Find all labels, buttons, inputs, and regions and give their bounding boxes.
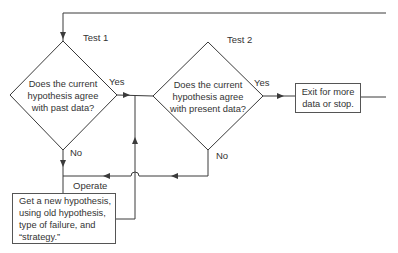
arrow-left-icon bbox=[103, 173, 110, 179]
exit-box-line: data or stop. bbox=[296, 98, 360, 110]
test2-question-line: hypothesis agree bbox=[156, 91, 260, 103]
test2-yes-label: Yes bbox=[254, 77, 270, 88]
exit-box-line: Exit for more bbox=[296, 86, 360, 98]
arrow-right-icon bbox=[277, 93, 284, 99]
new-hypothesis-line: type of failure, and bbox=[19, 219, 115, 231]
test1-yes-label: Yes bbox=[109, 76, 125, 87]
test2-question: Does the current hypothesis agree with p… bbox=[156, 79, 260, 115]
test1-yes-connector bbox=[117, 95, 153, 96]
new-hypothesis-box: Get a new hypothesis, using old hypothes… bbox=[12, 193, 116, 244]
arrow-down-icon bbox=[60, 32, 66, 39]
test1-label: Test 1 bbox=[83, 32, 108, 43]
test2-no-label: No bbox=[216, 150, 228, 161]
exit-box: Exit for more data or stop. bbox=[295, 83, 361, 113]
test1-no-label: No bbox=[70, 147, 82, 158]
arrow-left-icon bbox=[171, 173, 178, 179]
arrow-up-icon bbox=[132, 137, 138, 144]
top-feedback-line bbox=[63, 13, 386, 41]
test1-question-line: hypothesis agree bbox=[17, 90, 109, 102]
new-hypothesis-line: “strategy.” bbox=[19, 231, 115, 243]
new-hypothesis-line: using old hypothesis, bbox=[19, 207, 115, 219]
operate-label: Operate bbox=[73, 180, 107, 191]
test1-question: Does the current hypothesis agree with p… bbox=[17, 78, 109, 114]
return-connector bbox=[115, 96, 135, 219]
new-hypothesis-line: Get a new hypothesis, bbox=[19, 195, 115, 207]
test2-label: Test 2 bbox=[227, 34, 252, 45]
arrow-down-icon bbox=[60, 160, 66, 167]
test1-question-line: Does the current bbox=[17, 78, 109, 90]
arrow-right-icon bbox=[123, 92, 130, 98]
test2-question-line: with present data? bbox=[156, 103, 260, 115]
test2-question-line: Does the current bbox=[156, 79, 260, 91]
test1-question-line: with past data? bbox=[17, 102, 109, 114]
